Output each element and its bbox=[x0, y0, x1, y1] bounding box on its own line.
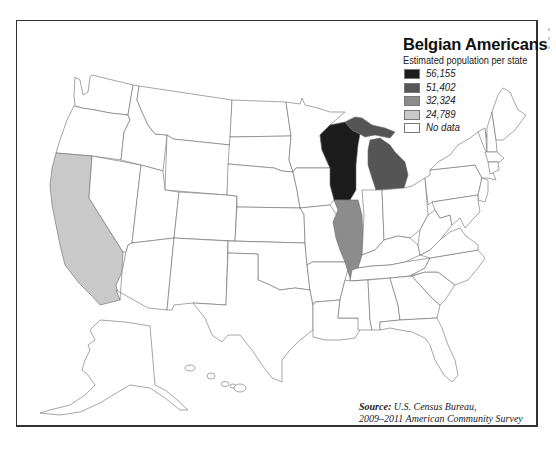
legend-title: Belgian Americans bbox=[403, 35, 538, 53]
state-new-mexico[interactable] bbox=[167, 238, 228, 310]
source-line-2: 2009–2011 American Community Survey bbox=[359, 413, 523, 425]
state-maine[interactable] bbox=[492, 88, 526, 140]
state-colorado[interactable] bbox=[174, 192, 237, 241]
state-connecticut[interactable] bbox=[488, 162, 499, 174]
legend-label: 32,324 bbox=[426, 94, 456, 106]
state-massachusetts[interactable] bbox=[485, 152, 504, 162]
legend-label: 51,402 bbox=[426, 81, 456, 93]
state-alaska[interactable] bbox=[40, 320, 188, 415]
state-kansas[interactable] bbox=[235, 207, 305, 243]
legend-label: 56,155 bbox=[426, 67, 456, 79]
legend-swatch bbox=[404, 96, 420, 106]
us-states-map bbox=[0, 0, 556, 451]
state-wyoming[interactable] bbox=[165, 135, 230, 195]
legend-swatch bbox=[404, 69, 420, 79]
source-line-1: U.S. Census Bureau, bbox=[394, 401, 477, 412]
legend-swatch bbox=[404, 83, 420, 93]
state-florida[interactable] bbox=[380, 318, 458, 382]
state-north-dakota[interactable] bbox=[230, 100, 291, 137]
state-oregon[interactable] bbox=[56, 106, 130, 160]
legend-subtitle: Estimated population per state bbox=[403, 54, 527, 67]
state-hawaii[interactable] bbox=[185, 365, 246, 392]
source-label: Source: bbox=[359, 401, 391, 412]
source-note: Source: U.S. Census Bureau, 2009–2011 Am… bbox=[359, 401, 523, 425]
edge-marks bbox=[548, 28, 552, 58]
state-michigan-lower[interactable] bbox=[368, 138, 408, 190]
legend: Belgian Americans Estimated population p… bbox=[403, 35, 538, 67]
legend-swatch bbox=[404, 110, 420, 120]
legend-label: No data bbox=[426, 121, 460, 133]
legend-label: 24,789 bbox=[426, 108, 456, 120]
legend-swatch bbox=[404, 123, 420, 133]
